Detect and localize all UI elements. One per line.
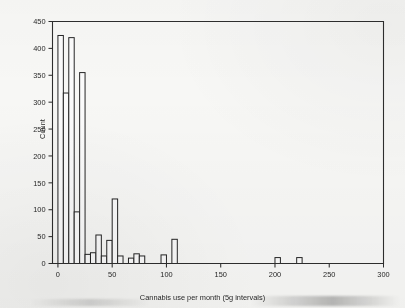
y-axis-tick-label: 50	[37, 232, 45, 241]
histogram-bar	[80, 73, 85, 264]
histogram-chart: 0501001502002503003504004500501001502002…	[0, 0, 405, 308]
histogram-bar	[172, 239, 177, 263]
histogram-bar	[63, 93, 68, 263]
histogram-bar	[112, 199, 117, 264]
histogram-bar	[85, 254, 90, 263]
histogram-bar	[69, 38, 74, 264]
y-axis-tick-label: 350	[33, 71, 45, 80]
histogram-bar	[107, 240, 112, 263]
histogram-bar	[96, 235, 101, 264]
x-axis-tick-label: 0	[56, 270, 60, 279]
x-axis-title-text: Cannabis use per month (5g intervals)	[140, 293, 265, 302]
histogram-bar	[275, 258, 280, 264]
histogram-bar	[297, 258, 302, 264]
histogram-bar	[58, 35, 63, 263]
histogram-bar	[118, 256, 123, 264]
histogram-bar	[134, 254, 139, 264]
x-axis-tick-label: 200	[269, 270, 281, 279]
histogram-bar	[90, 253, 95, 264]
histogram-bar	[101, 256, 106, 264]
x-axis-tick-label: 150	[215, 270, 227, 279]
x-axis-tick-label: 300	[377, 270, 389, 279]
y-axis-tick-label: 400	[33, 44, 45, 53]
y-axis-tick-label: 450	[33, 17, 45, 26]
histogram-bar	[139, 256, 144, 264]
y-axis-tick-label: 100	[33, 205, 45, 214]
y-axis-tick-label: 0	[41, 259, 45, 268]
figure-page: 0501001502002503003504004500501001502002…	[0, 0, 405, 308]
x-axis-tick-label: 50	[108, 270, 116, 279]
y-axis-title: Count	[31, 99, 49, 159]
histogram-bar	[74, 212, 79, 264]
histogram-bar	[128, 258, 133, 263]
y-axis-title-text: Count	[38, 119, 47, 139]
y-axis-tick-label: 150	[33, 179, 45, 188]
histogram-bar	[161, 255, 166, 264]
scan-artifact-smudge	[250, 296, 400, 306]
x-axis-tick-label: 100	[160, 270, 172, 279]
x-axis-tick-label: 250	[323, 270, 335, 279]
scan-artifact-smudge-secondary	[30, 299, 150, 306]
plot-frame	[53, 22, 384, 264]
